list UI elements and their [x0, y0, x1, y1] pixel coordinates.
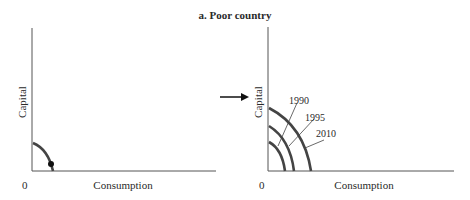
- ppf-curve-1995: [269, 126, 294, 171]
- left-ppf-point: [48, 161, 54, 167]
- curve-label-1990: 1990: [289, 95, 309, 106]
- left-x-axis-label: Consumption: [93, 179, 153, 191]
- leader-line-2010: [305, 140, 324, 148]
- right-y-axis-label: Capital: [252, 86, 264, 118]
- left-y-axis-label: Capital: [16, 86, 28, 118]
- curve-label-1995: 1995: [305, 112, 325, 123]
- arrow-icon: [220, 93, 249, 101]
- right-origin-label: 0: [259, 179, 265, 191]
- ppf-curve-1990: [269, 142, 285, 171]
- figure-title: a. Poor country: [199, 9, 272, 21]
- right-x-axis-label: Consumption: [334, 179, 394, 191]
- curve-label-2010: 2010: [316, 128, 336, 139]
- leader-line-1990: [278, 103, 297, 146]
- left-origin-label: 0: [22, 179, 28, 191]
- right-panel: 1990 1995 2010 0 Consumption Capital: [252, 27, 454, 191]
- diagram-canvas: a. Poor country 0 Consumption Capital 19…: [0, 0, 470, 200]
- left-panel: 0 Consumption Capital: [16, 28, 216, 191]
